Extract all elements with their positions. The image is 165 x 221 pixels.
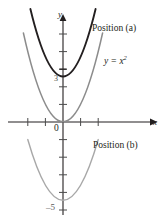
y-axis-label: y	[58, 10, 62, 19]
x-axis-label: x	[153, 118, 157, 127]
annotation-position-a: Position (a)	[92, 24, 136, 34]
equation-equals-sign: =	[108, 56, 119, 66]
annotation-position-b: Position (b)	[93, 141, 138, 151]
y-tick-label-negative-5: ‒5	[46, 203, 55, 212]
coordinate-plot	[0, 0, 165, 221]
y-tick-label-3: 3	[54, 75, 58, 83]
equation-exponent: 2	[124, 54, 127, 61]
annotation-equation-y-equals-x-squared: y = x2	[104, 57, 127, 67]
origin-label: 0	[54, 124, 59, 134]
parabola-translation-figure: Position (a) Position (b) y = x2 y x 0 3…	[0, 0, 165, 221]
